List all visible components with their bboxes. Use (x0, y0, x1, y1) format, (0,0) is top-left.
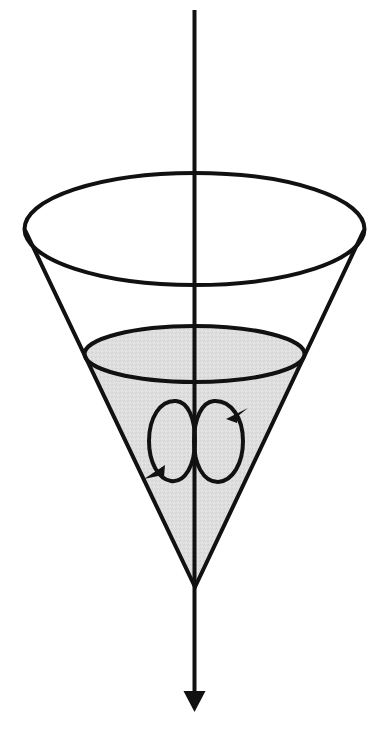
cone-vortex-diagram (0, 0, 383, 738)
figure-root (0, 0, 383, 738)
